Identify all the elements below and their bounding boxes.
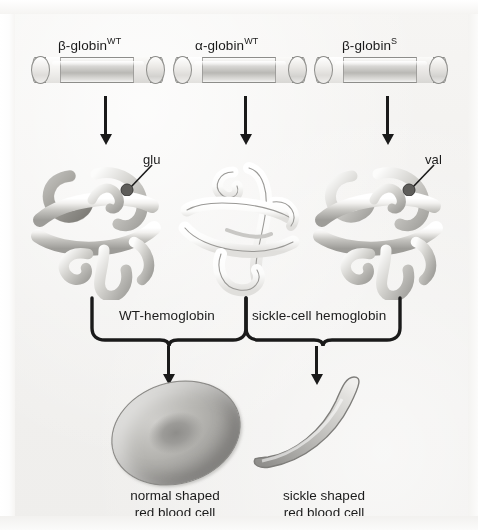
cylinder-cap-left xyxy=(31,56,50,84)
label-beta-globin-wt-base: β-globin xyxy=(58,38,107,53)
caption-sickle-red-blood-cell: sickle shaped red blood cell xyxy=(244,487,404,522)
label-wt-hemoglobin: WT-hemoglobin xyxy=(119,308,215,324)
cylinder-highlight xyxy=(52,61,144,66)
caption-sickle-line2: red blood cell xyxy=(244,504,404,521)
cylinder-cap-right xyxy=(429,56,448,84)
cylinder-highlight xyxy=(335,61,427,66)
label-beta-globin-wt: β-globinWT xyxy=(58,36,122,53)
label-beta-globin-s: β-globinS xyxy=(342,36,397,53)
label-alpha-globin-wt-base: α-globin xyxy=(195,38,244,53)
label-alpha-globin-wt-sup: WT xyxy=(244,36,258,46)
label-beta-globin-wt-sup: WT xyxy=(107,36,121,46)
page-left-margin xyxy=(0,0,15,530)
label-beta-globin-s-base: β-globin xyxy=(342,38,391,53)
caption-normal-line2: red blood cell xyxy=(95,504,255,521)
cylinder-cap-right xyxy=(146,56,165,84)
globin-cylinder-beta-wt xyxy=(32,57,164,83)
normal-red-blood-cell-illustration xyxy=(97,364,254,502)
cylinder-cap-left xyxy=(314,56,333,84)
label-glu: glu xyxy=(143,152,161,167)
caption-normal-red-blood-cell: normal shaped red blood cell xyxy=(95,487,255,522)
page-top-margin xyxy=(0,0,478,14)
label-val: val xyxy=(425,152,442,167)
cylinder-cap-right xyxy=(288,56,307,84)
caption-normal-line1: normal shaped xyxy=(95,487,255,504)
cylinder-cap-left xyxy=(173,56,192,84)
label-alpha-globin-wt: α-globinWT xyxy=(195,36,259,53)
globin-cylinder-alpha-wt xyxy=(174,57,306,83)
sickle-cell-diagram: β-globinWT α-globinWT β-globinS xyxy=(0,0,478,530)
sickle-red-blood-cell-illustration xyxy=(250,375,380,487)
page-right-margin xyxy=(468,0,478,530)
caption-sickle-line1: sickle shaped xyxy=(244,487,404,504)
label-sickle-cell-hemoglobin: sickle-cell hemoglobin xyxy=(252,308,386,324)
globin-cylinder-beta-s xyxy=(315,57,447,83)
folded-globin-alpha-wt xyxy=(173,158,313,300)
label-beta-globin-s-sup: S xyxy=(391,36,397,46)
cylinder-highlight xyxy=(194,61,286,66)
